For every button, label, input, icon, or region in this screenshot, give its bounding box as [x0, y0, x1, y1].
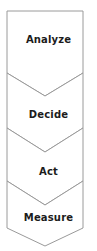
stage-label-decide: Decide: [0, 109, 97, 120]
stage-label-measure: Measure: [0, 212, 97, 223]
stage-label-act: Act: [0, 166, 97, 177]
stage-label-analyze: Analyze: [0, 34, 97, 45]
chevron-process-diagram: Analyze Decide Act Measure: [0, 0, 97, 251]
